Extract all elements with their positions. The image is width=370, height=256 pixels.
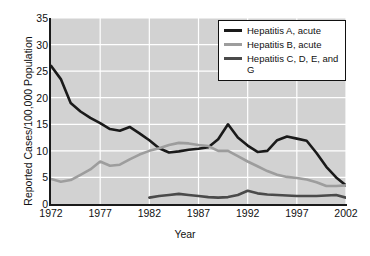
chart-legend: Hepatitis A, acuteHepatitis B, acuteHepa…	[218, 20, 346, 81]
x-tick-label: 2002	[334, 207, 357, 219]
x-axis-line	[49, 204, 347, 206]
y-tick-label: 30	[2, 40, 48, 50]
legend-swatch-icon	[224, 43, 242, 46]
y-tick-label: 20	[2, 93, 48, 103]
x-axis-title: Year	[0, 228, 370, 240]
legend-item[interactable]: Hepatitis A, acute	[224, 25, 340, 36]
x-tick-label: 1982	[138, 207, 161, 219]
legend-swatch-icon	[224, 29, 242, 32]
y-tick-label: 5	[2, 172, 48, 182]
legend-item-label: Hepatitis B, acute	[247, 39, 321, 50]
x-tick-label: 1977	[88, 207, 111, 219]
x-tick-label: 1992	[236, 207, 259, 219]
legend-item[interactable]: Hepatitis B, acute	[224, 39, 340, 50]
x-tick-label: 1997	[285, 207, 308, 219]
y-tick-label: 15	[2, 119, 48, 129]
y-axis-line	[49, 18, 51, 205]
hepatitis-incidence-chart: Reported Cases/100,000 Population 051015…	[0, 0, 370, 256]
x-tick-label: 1972	[39, 207, 62, 219]
y-tick-label: 10	[2, 146, 48, 156]
legend-item[interactable]: Hepatitis C, D, E, and G	[224, 53, 340, 75]
legend-item-label: Hepatitis C, D, E, and G	[247, 53, 340, 75]
x-tick-label: 1987	[187, 207, 210, 219]
y-tick-label: 35	[2, 13, 48, 23]
y-tick-label: 25	[2, 66, 48, 76]
legend-swatch-icon	[224, 57, 242, 60]
legend-item-label: Hepatitis A, acute	[247, 25, 321, 36]
x-axis-tick-labels: 1972197719821987199219972002	[0, 207, 370, 223]
